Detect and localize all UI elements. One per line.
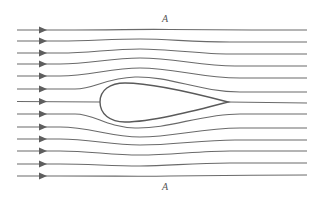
streamline-10: [17, 139, 307, 145]
streamline-1: [17, 29, 307, 30]
arrow-icon: [39, 148, 47, 155]
arrow-icon: [39, 73, 47, 80]
arrow-icon: [39, 38, 47, 45]
streamline-3: [17, 49, 307, 54]
streamline-9: [17, 127, 307, 137]
arrow-icon: [39, 136, 47, 143]
streamline-2: [17, 39, 307, 42]
arrow-icon: [39, 111, 47, 118]
streamline-12: [17, 163, 307, 166]
flow-arrows: [39, 27, 47, 180]
streamline-11: [17, 151, 307, 155]
arrow-icon: [39, 27, 47, 34]
lower-streamlines: [17, 114, 307, 176]
streamline-7-downstream: [228, 102, 307, 103]
streamline-7-upstream: [17, 102, 100, 103]
streamline-figure: [0, 0, 323, 201]
arrow-icon: [39, 124, 47, 131]
upper-streamlines: [17, 29, 307, 92]
streamline-4: [17, 58, 307, 66]
arrow-icon: [39, 86, 47, 93]
streamline-5: [17, 68, 307, 78]
section-label-bottom: A: [162, 182, 168, 192]
flow-diagram: A A: [0, 0, 323, 201]
arrow-icon: [39, 50, 47, 57]
arrow-icon: [39, 61, 47, 68]
streamline-13: [17, 175, 307, 176]
arrow-icon: [39, 173, 47, 180]
arrow-icon: [39, 98, 47, 105]
arrow-icon: [39, 161, 47, 168]
section-label-top: A: [162, 14, 168, 24]
